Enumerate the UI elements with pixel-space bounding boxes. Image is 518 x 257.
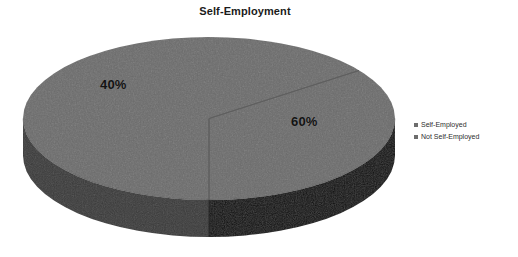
pie-data-label-not-self-employed: 60%	[291, 114, 318, 129]
pie-data-label-self-employed: 40%	[100, 77, 127, 92]
legend-item-label: Self-Employed	[421, 120, 467, 129]
pie-3d-svg	[0, 0, 420, 257]
legend-item-self-employed[interactable]: Self-Employed	[414, 119, 516, 130]
legend-swatch-icon	[414, 123, 418, 127]
pie-chart-graphic: 40% 60%	[0, 0, 420, 257]
legend-item-label: Not Self-Employed	[421, 132, 479, 141]
pie-chart-figure: Self-Employment	[0, 0, 518, 257]
legend-swatch-icon	[414, 135, 418, 139]
chart-legend: Self-Employed Not Self-Employed	[414, 119, 516, 143]
legend-item-not-self-employed[interactable]: Not Self-Employed	[414, 131, 516, 142]
